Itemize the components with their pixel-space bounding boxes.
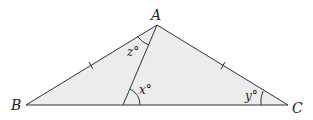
angle-label-x: x°	[139, 83, 152, 97]
triangle-diagram: A B C z° x° y°	[0, 0, 313, 120]
angle-label-y: y°	[244, 89, 258, 103]
vertex-label-b: B	[10, 97, 21, 113]
vertex-label-a: A	[149, 7, 161, 23]
angle-label-z: z°	[126, 45, 139, 59]
vertex-label-c: C	[292, 100, 303, 116]
